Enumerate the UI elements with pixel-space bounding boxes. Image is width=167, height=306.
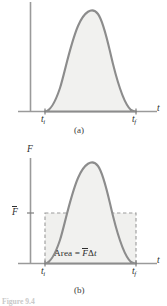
panel-a-tick-initial-subscript: i xyxy=(43,118,45,125)
panel-b-x-axis-label: t xyxy=(157,256,160,266)
panel-b-tick-initial-subscript: i xyxy=(43,270,45,277)
panel-b-y-axis-label: F xyxy=(27,145,33,155)
panel-a-plot xyxy=(0,0,167,140)
area-annotation-force: F xyxy=(82,249,88,258)
mean-force-letter: F xyxy=(12,207,18,217)
figure-caption: Figure 9.4 xyxy=(2,298,35,306)
mean-force-label: F xyxy=(12,207,18,217)
panel-b-caption: (b) xyxy=(74,286,85,295)
panel-b-tick-initial-label: ti xyxy=(41,267,46,277)
figure-root: t ti tf (a) F F t ti tf Area = FΔt (b) F… xyxy=(0,0,167,306)
area-annotation-prefix: Area = xyxy=(54,248,82,258)
panel-a-x-axis-label: t xyxy=(157,104,160,114)
panel-a-force-curve xyxy=(45,10,136,111)
panel-a-tick-initial-label: ti xyxy=(41,115,46,125)
panel-a-caption: (a) xyxy=(74,126,84,135)
panel-b-tick-final-label: tf xyxy=(132,267,137,277)
area-annotation: Area = FΔt xyxy=(54,249,97,258)
panel-a-tick-final-subscript: f xyxy=(134,118,136,125)
panel-a-tick-final-label: tf xyxy=(132,115,137,125)
panel-b-tick-final-subscript: f xyxy=(134,270,136,277)
area-annotation-time: t xyxy=(94,248,97,258)
panel-b-plot xyxy=(0,140,167,306)
